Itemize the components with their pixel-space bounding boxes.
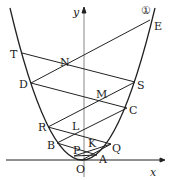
x-axis-label: x (150, 166, 157, 179)
point-label-Q: Q (112, 142, 121, 155)
point-label-P: P (73, 144, 81, 157)
point-label-C: C (129, 104, 137, 117)
segment-ED (31, 20, 150, 83)
point-label-K: K (88, 137, 97, 150)
point-label-D: D (19, 78, 28, 91)
y-axis-label: y (72, 6, 80, 19)
point-label-N: N (60, 56, 70, 69)
point-label-E: E (154, 20, 162, 33)
point-label-B: B (47, 139, 55, 152)
point-label-T: T (10, 48, 18, 61)
parabola-diagram: y x ① E T N D S M C R L B K Q P A O (0, 0, 172, 180)
x-axis-arrow (160, 158, 165, 162)
segment-DC (31, 83, 127, 108)
segment-SR (48, 82, 135, 127)
point-label-O: O (76, 163, 85, 176)
point-label-A: A (98, 153, 108, 166)
parabola-curve (10, 8, 155, 160)
point-label-S: S (137, 79, 145, 92)
point-label-R: R (38, 121, 47, 134)
point-label-M: M (96, 88, 107, 101)
curve-label: ① (141, 4, 151, 17)
y-axis-arrow (82, 7, 86, 13)
point-label-L: L (72, 120, 80, 133)
